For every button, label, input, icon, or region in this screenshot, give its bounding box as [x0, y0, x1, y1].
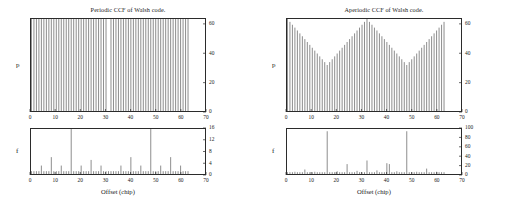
ytick-aperiodic-f-60: 60: [465, 144, 470, 149]
xtick-aperiodic-f-10: 10: [308, 178, 313, 183]
xtick-aperiodic-f-30: 30: [359, 178, 364, 183]
ytick-periodic-p-0: 0: [209, 109, 212, 114]
ytick-aperiodic-f-0: 0: [465, 172, 468, 177]
xtick-aperiodic-f-0: 0: [285, 178, 288, 183]
ytick-periodic-f-4: 4: [209, 161, 212, 166]
xtick-aperiodic-f-40: 40: [384, 178, 389, 183]
xtick-periodic-p-60: 60: [178, 115, 183, 120]
xtick-aperiodic-p-30: 30: [359, 115, 364, 120]
ytick-aperiodic-p-0: 0: [465, 109, 468, 114]
ytick-periodic-p-60: 60: [209, 21, 214, 26]
xtick-aperiodic-p-70: 70: [459, 115, 464, 120]
ytick-periodic-f-16: 16: [209, 125, 214, 130]
ylabel-aperiodic-p: p: [272, 62, 276, 69]
xaxis-label-periodic: Offset (chip): [30, 188, 206, 195]
xtick-periodic-p-20: 20: [78, 115, 83, 120]
plot-aperiodic-f: [286, 128, 462, 175]
plot-canvas-periodic-p: [31, 19, 205, 111]
xtick-periodic-f-0: 0: [29, 178, 32, 183]
panel-title-aperiodic: Aperiodic CCF of Walsh code.: [256, 6, 512, 13]
ylabel-aperiodic-f: f: [272, 148, 274, 155]
ytick-aperiodic-p-20: 20: [465, 80, 470, 85]
ytick-aperiodic-f-80: 80: [465, 135, 470, 140]
ytick-aperiodic-f-100: 100: [465, 125, 473, 130]
xtick-periodic-p-70: 70: [203, 115, 208, 120]
xtick-periodic-p-0: 0: [29, 115, 32, 120]
xtick-aperiodic-p-0: 0: [285, 115, 288, 120]
ytick-periodic-f-12: 12: [209, 137, 214, 142]
xtick-aperiodic-p-20: 20: [334, 115, 339, 120]
xtick-aperiodic-f-50: 50: [409, 178, 414, 183]
xtick-periodic-p-50: 50: [153, 115, 158, 120]
xtick-periodic-f-20: 20: [78, 178, 83, 183]
ytick-aperiodic-f-20: 20: [465, 163, 470, 168]
xtick-aperiodic-p-40: 40: [384, 115, 389, 120]
xtick-periodic-f-10: 10: [52, 178, 57, 183]
ytick-periodic-f-8: 8: [209, 149, 212, 154]
panel-aperiodic: Aperiodic CCF of Walsh code. p f 0102030…: [256, 0, 512, 204]
ylabel-periodic-p: p: [16, 62, 20, 69]
xtick-aperiodic-f-70: 70: [459, 178, 464, 183]
plot-aperiodic-p: [286, 18, 462, 112]
panel-periodic: Periodic CCF of Walsh code. p f 01020304…: [0, 0, 256, 204]
xtick-periodic-p-10: 10: [52, 115, 57, 120]
plot-canvas-periodic-f: [31, 129, 205, 174]
figure-root: Periodic CCF of Walsh code. p f 01020304…: [0, 0, 512, 204]
xaxis-label-aperiodic: Offset (chip): [286, 188, 462, 195]
xtick-periodic-f-70: 70: [203, 178, 208, 183]
ylabel-periodic-f: f: [16, 148, 18, 155]
ytick-aperiodic-p-60: 60: [465, 21, 470, 26]
xtick-aperiodic-f-60: 60: [434, 178, 439, 183]
xtick-periodic-p-30: 30: [103, 115, 108, 120]
plot-canvas-aperiodic-p: [287, 19, 461, 111]
ytick-periodic-p-20: 20: [209, 80, 214, 85]
panel-title-periodic: Periodic CCF of Walsh code.: [0, 6, 256, 13]
plot-canvas-aperiodic-f: [287, 129, 461, 174]
xtick-aperiodic-p-60: 60: [434, 115, 439, 120]
plot-periodic-f: [30, 128, 206, 175]
xtick-aperiodic-f-20: 20: [334, 178, 339, 183]
xtick-periodic-f-30: 30: [103, 178, 108, 183]
xtick-periodic-f-50: 50: [153, 178, 158, 183]
xtick-aperiodic-p-50: 50: [409, 115, 414, 120]
ytick-aperiodic-p-40: 40: [465, 51, 470, 56]
ytick-periodic-p-40: 40: [209, 51, 214, 56]
ytick-aperiodic-f-40: 40: [465, 154, 470, 159]
ytick-periodic-f-0: 0: [209, 172, 212, 177]
xtick-aperiodic-p-10: 10: [308, 115, 313, 120]
plot-periodic-p: [30, 18, 206, 112]
xtick-periodic-p-40: 40: [128, 115, 133, 120]
xtick-periodic-f-40: 40: [128, 178, 133, 183]
xtick-periodic-f-60: 60: [178, 178, 183, 183]
